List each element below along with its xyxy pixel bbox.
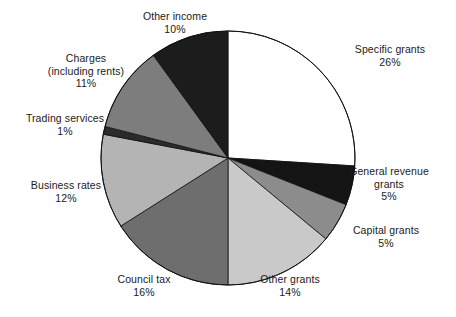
pie-label-other-income-pct: 10% (120, 23, 230, 36)
pie-label-capital-grants-pct: 5% (330, 237, 442, 250)
pie-label-specific-grants-name: Specific grants (330, 43, 450, 56)
pie-label-other-grants: Other grants 14% (238, 273, 342, 298)
pie-label-specific-grants: Specific grants 26% (330, 43, 450, 68)
pie-chart-figure: Other income 10% Specific grants 26% Gen… (0, 0, 456, 317)
pie-label-council-tax: Council tax 16% (92, 273, 196, 298)
pie-label-council-tax-pct: 16% (92, 286, 196, 299)
pie-label-trading-services-name: Trading services (6, 112, 124, 125)
pie-label-capital-grants: Capital grants 5% (330, 224, 442, 249)
pie-label-charges-pct: 11% (30, 77, 142, 90)
pie-label-general-revenue-grants-line2: grants (330, 178, 448, 191)
pie-label-other-income-name: Other income (120, 10, 230, 23)
pie-label-council-tax-name: Council tax (92, 273, 196, 286)
pie-label-business-rates-name: Business rates (10, 179, 122, 192)
pie-label-charges: Charges (including rents) 11% (30, 52, 142, 90)
pie-label-other-income: Other income 10% (120, 10, 230, 35)
pie-label-capital-grants-name: Capital grants (330, 224, 442, 237)
pie-label-business-rates: Business rates 12% (10, 179, 122, 204)
pie-label-general-revenue-grants-line1: General revenue (330, 165, 448, 178)
pie-label-trading-services: Trading services 1% (6, 112, 124, 137)
pie-label-general-revenue-grants-pct: 5% (330, 190, 448, 203)
pie-label-business-rates-pct: 12% (10, 192, 122, 205)
pie-label-charges-line1: Charges (30, 52, 142, 65)
pie-label-specific-grants-pct: 26% (330, 56, 450, 69)
pie-label-charges-line2: (including rents) (30, 65, 142, 78)
pie-label-trading-services-pct: 1% (6, 125, 124, 138)
pie-label-other-grants-name: Other grants (238, 273, 342, 286)
pie-chart-page: Other income 10% Specific grants 26% Gen… (0, 0, 456, 317)
pie-label-other-grants-pct: 14% (238, 286, 342, 299)
pie-label-general-revenue-grants: General revenue grants 5% (330, 165, 448, 203)
